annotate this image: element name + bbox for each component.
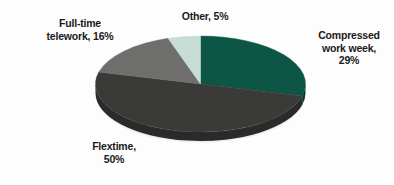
slice-label-other: Other, 5%	[163, 10, 247, 23]
slice-label-flextime: Flextime, 50%	[62, 140, 166, 165]
slice-label-full-time-telework: Full-time telework, 16%	[22, 17, 138, 42]
slice-label-compressed-work-week: Compressed work week, 29%	[306, 29, 392, 67]
pie-slices-group	[96, 36, 306, 143]
pie-chart-figure: Other, 5% Full-time telework, 16% Compre…	[0, 0, 394, 185]
